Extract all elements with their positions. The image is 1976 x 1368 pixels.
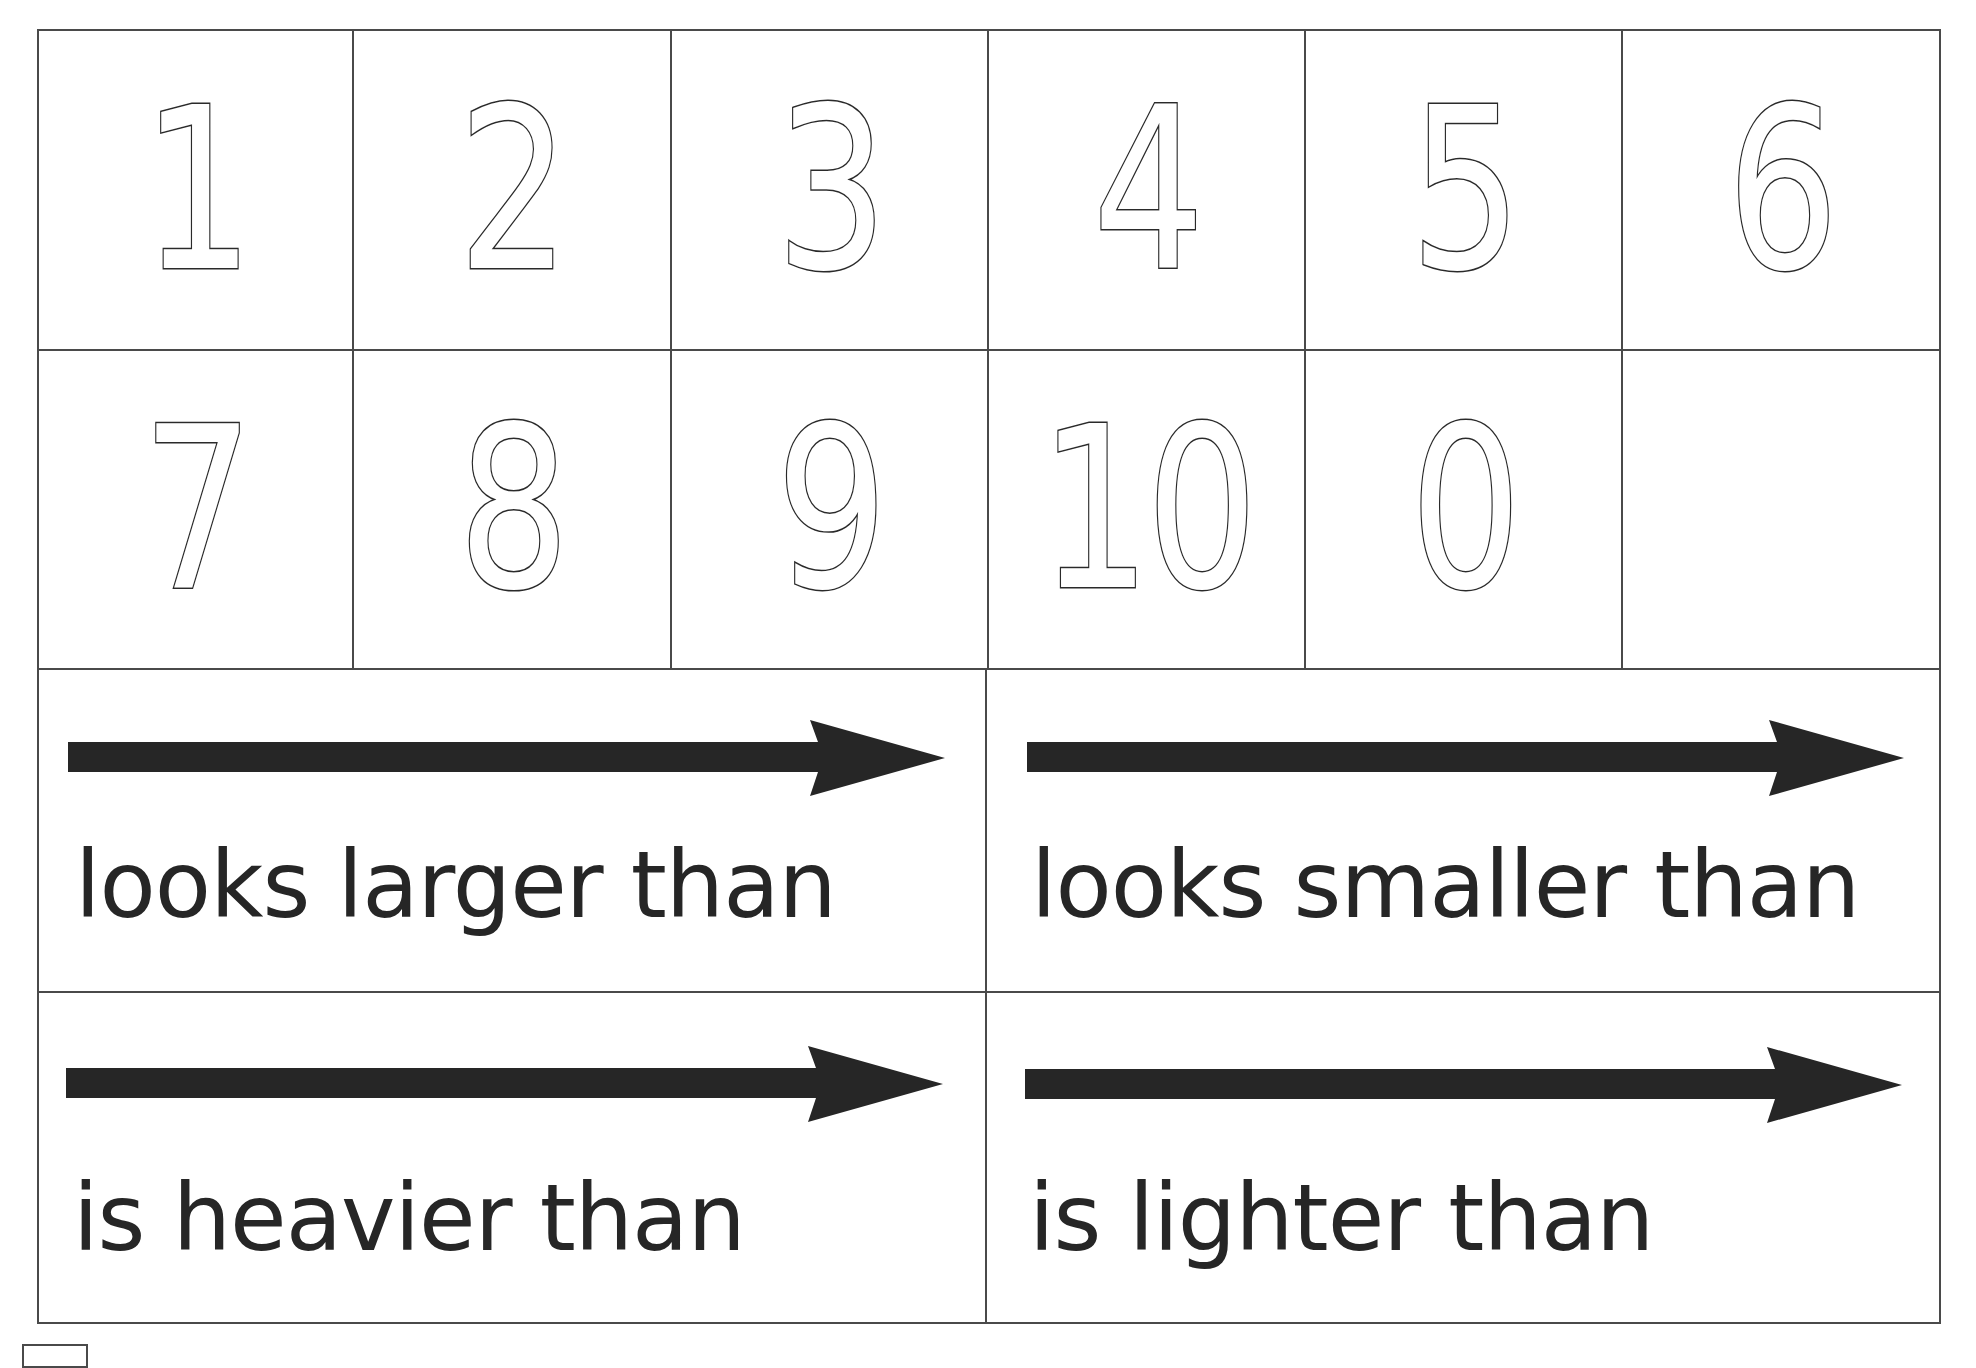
numeral-label: 8	[459, 397, 566, 622]
numeral-label: 5	[1410, 78, 1517, 303]
arrow-right-icon	[39, 670, 985, 991]
numeral-card-4: 4	[989, 31, 1304, 349]
arrow-right-icon	[987, 993, 1939, 1322]
numeral-card-blank	[1623, 351, 1939, 668]
grid-line-bottom	[38, 1322, 1941, 1324]
comparison-card-lighter: is lighter than	[987, 993, 1939, 1322]
numeral-label: 3	[776, 78, 883, 303]
numeral-card-2: 2	[354, 31, 670, 349]
arrow-right-icon	[987, 670, 1939, 991]
numeral-card-3: 3	[672, 31, 987, 349]
numeral-card-1: 1	[39, 31, 352, 349]
grid-line-right	[1939, 29, 1941, 1324]
numeral-card-9: 9	[672, 351, 987, 668]
comparison-card-looks-smaller: looks smaller than	[987, 670, 1939, 991]
numeral-card-6: 6	[1623, 31, 1939, 349]
numeral-card-5: 5	[1306, 31, 1621, 349]
comparison-label: is heavier than	[73, 1173, 745, 1265]
numeral-label: 0	[1410, 397, 1517, 622]
numeral-label: 6	[1728, 78, 1835, 303]
numeral-card-8: 8	[354, 351, 670, 668]
numeral-card-0: 0	[1306, 351, 1621, 668]
arrow-right-icon	[39, 993, 985, 1322]
corner-marker-box	[22, 1344, 88, 1368]
comparison-card-looks-larger: looks larger than	[39, 670, 985, 991]
numeral-label: 7	[142, 397, 249, 622]
numeral-label: 2	[459, 78, 566, 303]
comparison-label: looks smaller than	[1031, 840, 1859, 932]
numeral-label: 9	[776, 397, 883, 622]
numeral-label: 1	[142, 78, 249, 303]
numeral-label: 10	[1040, 397, 1254, 622]
numeral-label: 4	[1093, 78, 1200, 303]
comparison-card-heavier: is heavier than	[39, 993, 985, 1322]
comparison-label: is lighter than	[1029, 1173, 1653, 1265]
numeral-card-7: 7	[39, 351, 352, 668]
numeral-card-10: 10	[989, 351, 1304, 668]
comparison-label: looks larger than	[75, 840, 836, 932]
